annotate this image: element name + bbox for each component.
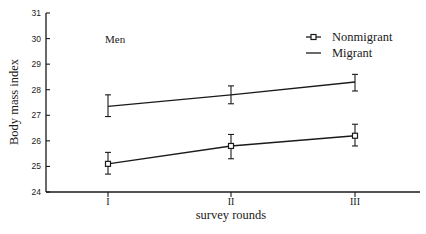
legend-label-nonmigrant: Nonmigrant: [332, 30, 393, 44]
legend-item-migrant: Migrant: [306, 46, 373, 60]
series-layer: [105, 74, 358, 174]
x-axis-ticks: IIIIII: [106, 192, 360, 207]
bmi-line-chart: Body mass index 2425262728293031 IIIIII …: [0, 0, 426, 234]
series-migrant: [105, 74, 358, 116]
y-tick-label: 29: [32, 59, 42, 69]
y-tick-label: 30: [32, 34, 42, 44]
legend-item-nonmigrant: Nonmigrant: [306, 30, 393, 44]
y-tick-label: 24: [32, 187, 42, 197]
y-tick-label: 26: [32, 136, 42, 146]
series-nonmigrant: [105, 124, 358, 174]
legend: Nonmigrant Migrant: [306, 30, 393, 60]
y-tick-label: 27: [32, 110, 42, 120]
x-tick-label: I: [106, 196, 109, 207]
x-tick-label: II: [228, 196, 235, 207]
legend-label-migrant: Migrant: [332, 46, 373, 60]
x-tick-label: III: [350, 196, 360, 207]
y-tick-label: 25: [32, 161, 42, 171]
square-marker-icon: [229, 143, 234, 148]
square-marker-icon: [106, 161, 111, 166]
panel-label: Men: [105, 33, 126, 45]
y-axis-title: Body mass index: [7, 58, 21, 145]
y-tick-label: 28: [32, 85, 42, 95]
y-tick-label: 31: [32, 8, 42, 18]
y-axis-ticks: 2425262728293031: [32, 8, 50, 197]
square-marker-icon: [311, 35, 316, 40]
x-axis-title: survey rounds: [196, 208, 267, 222]
square-marker-icon: [353, 133, 358, 138]
